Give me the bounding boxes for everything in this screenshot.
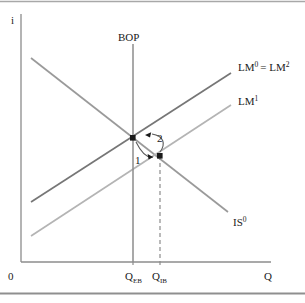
x-axis-label: Q (264, 270, 272, 282)
q-ib-base: Q (152, 270, 160, 282)
lm1-label-base: LM (238, 95, 255, 107)
lm0-curve-label: LM0= LM2 (238, 60, 290, 73)
lm0-label-eq: = LM (260, 61, 286, 73)
q-eb-base: Q (125, 270, 133, 282)
tick-label-q-eb: QEB (125, 270, 142, 285)
origin-label: 0 (8, 270, 14, 282)
is-lm-bop-diagram: i Q 0 BOP LM0= LM2 LM1 IS0 1 2 QEB QIB (0, 0, 305, 303)
lm1-curve (31, 105, 231, 236)
lm1-label-sup: 1 (255, 94, 259, 103)
point-a-marker (130, 135, 136, 141)
y-axis-label: i (11, 14, 14, 26)
bop-curve-label: BOP (118, 31, 139, 43)
is0-label-sup: 0 (243, 215, 247, 224)
tick-label-q-ib: QIB (152, 270, 167, 285)
step-2-label: 2 (157, 132, 163, 144)
q-eb-sub: EB (133, 277, 142, 285)
lm1-curve-label: LM1 (238, 94, 259, 107)
is0-curve-label: IS0 (233, 215, 247, 228)
lm0-label-base: LM (238, 61, 255, 73)
lm0-label-sup: 0 (255, 60, 259, 69)
point-b-marker (157, 153, 163, 159)
arrow-step-2-head (145, 132, 151, 137)
q-ib-sub: IB (160, 277, 167, 285)
figure-canvas: i Q 0 BOP LM0= LM2 LM1 IS0 1 2 QEB QIB (0, 0, 305, 303)
is0-label-base: IS (233, 216, 243, 228)
lm0-label-eq-sup: 2 (286, 60, 290, 69)
step-1-label: 1 (135, 154, 141, 166)
is0-curve (31, 58, 228, 212)
